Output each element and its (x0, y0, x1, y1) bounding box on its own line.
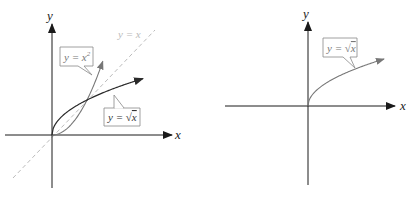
curve-sqrt-left (52, 79, 143, 135)
diagram-canvas: y = x x y y = x2 y = √x x y (0, 0, 417, 205)
right-panel: x y y = √x (225, 6, 406, 185)
right-x-axis-label: x (399, 98, 406, 113)
identity-line-label: y = x (117, 28, 141, 40)
curve-x-squared (52, 61, 103, 135)
callout-x-squared-text: y = x2 (63, 50, 91, 63)
callout-sqrt-left-text: y = √x (107, 111, 137, 123)
left-panel: y = x x y y = x2 y = √x (5, 8, 181, 188)
left-x-axis-label: x (174, 127, 181, 142)
left-y-axis-label: y (45, 8, 53, 23)
callout-sqrt-left: y = √x (104, 95, 140, 126)
callout-sqrt-right: y = √x (323, 38, 357, 68)
callout-sqrt-left-pointer (114, 95, 124, 108)
callout-sqrt-right-text: y = √x (326, 42, 356, 54)
right-y-axis-label: y (301, 6, 309, 21)
callout-x-squared: y = x2 (60, 47, 93, 75)
curve-sqrt-right (308, 59, 384, 106)
